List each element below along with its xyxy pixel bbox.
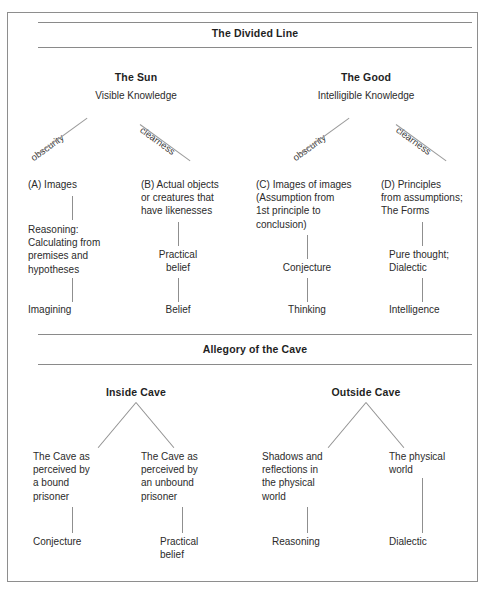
column-d-bottom: Intelligence	[389, 303, 485, 316]
column-a-top: (A) Images	[28, 178, 132, 191]
diagram-page: The Divided Line The Sun Visible Knowled…	[0, 0, 493, 601]
cave-column-4-bottom: Dialectic	[389, 535, 485, 548]
divided-line-title: The Divided Line	[38, 27, 472, 39]
cave-column-4-top: The physicalworld	[389, 450, 485, 476]
column-a-bottom: Imagining	[28, 303, 132, 316]
cave-column-2-connector	[182, 507, 183, 533]
column-a-connector-1	[72, 196, 73, 220]
heading-the-sun: The Sun	[38, 71, 234, 83]
column-a-middle: Reasoning:Calculating frompremises andhy…	[28, 223, 132, 276]
heading-outside-cave: Outside Cave	[268, 386, 464, 398]
column-c-top: (C) Images of images(Assumption from1st …	[256, 178, 374, 231]
subheading-intelligible-knowledge: Intelligible Knowledge	[268, 90, 464, 101]
column-c-middle: Conjecture	[262, 261, 352, 274]
subheading-visible-knowledge: Visible Knowledge	[38, 90, 234, 101]
cave-column-3-connector	[307, 507, 308, 533]
cave-column-3-top: Shadows andreflections inthe physicalwor…	[262, 450, 360, 503]
column-d-middle: Pure thought;Dialectic	[389, 248, 485, 274]
allegory-rule-bottom	[38, 364, 472, 365]
cave-column-1-top: The Cave asperceived bya boundprisoner	[33, 450, 129, 503]
cave-column-2-bottom: Practicalbelief	[160, 535, 250, 561]
column-b-bottom: Belief	[141, 303, 215, 316]
cave-column-1-connector	[72, 507, 73, 533]
column-b-connector-1	[178, 222, 179, 246]
cave-column-3-bottom: Reasoning	[272, 535, 362, 548]
column-d-top: (D) Principlesfrom assumptions;The Forms	[381, 178, 485, 218]
heading-inside-cave: Inside Cave	[38, 386, 234, 398]
column-c-bottom: Thinking	[262, 303, 352, 316]
divided-line-rule-top	[38, 22, 472, 23]
allegory-title: Allegory of the Cave	[38, 343, 472, 355]
cave-column-1-bottom: Conjecture	[33, 535, 129, 548]
divided-line-rule-bottom	[38, 47, 472, 48]
column-b-connector-2	[178, 278, 179, 302]
column-b-top: (B) Actual objectsor creatures thathave …	[141, 178, 247, 218]
column-d-connector-2	[422, 278, 423, 302]
heading-the-good: The Good	[268, 71, 464, 83]
column-c-connector-2	[307, 278, 308, 302]
column-c-connector-1	[307, 235, 308, 259]
column-a-connector-2	[72, 278, 73, 302]
column-b-middle: Practicalbelief	[141, 248, 215, 274]
column-d-connector-1	[422, 222, 423, 246]
cave-column-4-connector	[422, 478, 423, 533]
allegory-rule-top	[38, 334, 472, 335]
cave-column-2-top: The Cave asperceived byan unboundprisone…	[141, 450, 241, 503]
